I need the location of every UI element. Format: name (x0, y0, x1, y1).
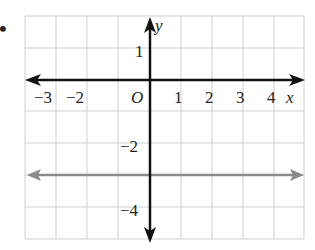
bullet-marker: • (0, 16, 7, 41)
y-tick-label: 1 (135, 42, 144, 61)
grid (25, 16, 304, 239)
y-axis-label: y (153, 16, 163, 35)
x-tick-label: 2 (205, 88, 214, 107)
x-tick-label: 4 (267, 88, 276, 107)
x-tick-label: 1 (174, 88, 183, 107)
y-axis (144, 17, 156, 243)
x-tick-label: 3 (236, 88, 245, 107)
x-axis (25, 74, 305, 86)
coordinate-plane: • −3 −2 1 2 3 4 (0, 0, 315, 250)
y-tick-label: −4 (120, 201, 139, 220)
x-tick-label: −3 (34, 88, 52, 107)
x-tick-label: −2 (66, 88, 84, 107)
x-axis-label: x (285, 88, 294, 107)
y-tick-label: −2 (120, 137, 138, 156)
origin-label: O (131, 88, 143, 107)
line-y-equals-neg3 (27, 169, 304, 181)
